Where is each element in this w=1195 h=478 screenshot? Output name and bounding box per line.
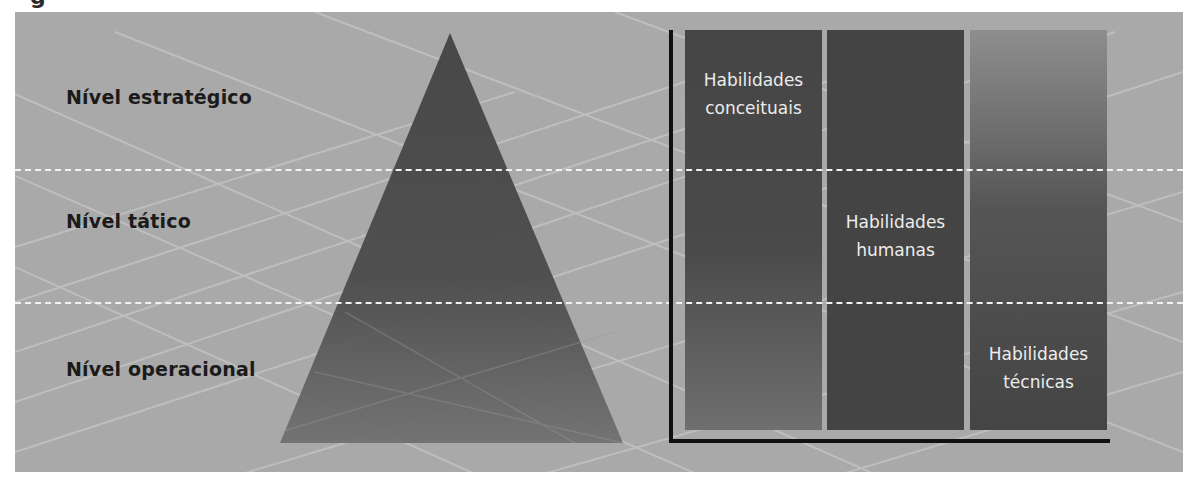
divider-strategic-tactical bbox=[15, 169, 1183, 171]
diagram-panel: Nível estratégico Nível tático Nível ope… bbox=[15, 12, 1183, 472]
skill-label-line2: técnicas bbox=[970, 368, 1107, 396]
skill-label-line2: conceituais bbox=[685, 94, 822, 122]
skill-column-conceptual: Habilidades conceituais bbox=[685, 30, 822, 430]
skill-label-line1: Habilidades bbox=[827, 208, 964, 236]
skill-column-human: Habilidades humanas bbox=[827, 30, 964, 430]
skill-label-line2: humanas bbox=[827, 236, 964, 264]
skill-label-line1: Habilidades bbox=[685, 66, 822, 94]
skill-label-line1: Habilidades bbox=[970, 340, 1107, 368]
x-axis bbox=[669, 439, 1110, 443]
caption-fragment: g bbox=[30, 0, 46, 9]
skill-column-technical: Habilidades técnicas bbox=[970, 30, 1107, 430]
divider-tactical-operational bbox=[15, 302, 1183, 304]
y-axis bbox=[669, 30, 673, 443]
